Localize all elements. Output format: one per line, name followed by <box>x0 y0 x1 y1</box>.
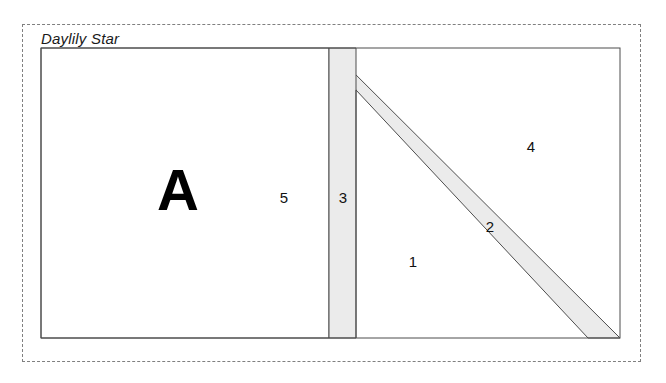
region-label-5: 5 <box>280 189 288 206</box>
region-label-2: 2 <box>486 218 494 235</box>
block-letter-a: A <box>157 161 199 219</box>
quilt-block-diagram <box>0 0 666 383</box>
figure-root: Daylily Star A 5 3 4 2 1 <box>0 0 666 383</box>
region-label-3: 3 <box>339 189 347 206</box>
region-label-1: 1 <box>409 253 417 270</box>
region-label-4: 4 <box>527 138 535 155</box>
